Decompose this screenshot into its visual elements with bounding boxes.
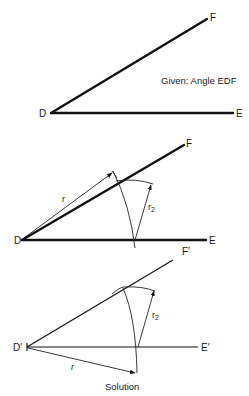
caption-solution: Solution xyxy=(105,381,139,392)
label-d: D xyxy=(14,235,21,246)
radius-r-arrow xyxy=(28,348,135,373)
radius-arc xyxy=(113,171,135,248)
label-d: D xyxy=(39,108,46,119)
label-f: F xyxy=(186,138,192,149)
angle-transfer-diagram: D E F Given: Angle EDF D E F r r2 xyxy=(0,0,249,396)
radius-arc xyxy=(123,288,137,373)
label-r2: r2 xyxy=(148,202,155,213)
chord-r2-arrow xyxy=(135,185,151,240)
label-r: r xyxy=(62,194,65,204)
ray-df-prime xyxy=(27,260,173,347)
figure-construction: D E F r r2 xyxy=(14,138,216,248)
label-d-prime: D′ xyxy=(13,342,22,353)
caption-given: Given: Angle EDF xyxy=(161,75,237,86)
ray-df xyxy=(51,19,207,113)
label-e-prime: E′ xyxy=(201,342,210,353)
figure-solution: D′ E′ F′ r r2 Solution xyxy=(13,246,210,392)
label-f: F xyxy=(210,12,216,23)
figure-given: D E F Given: Angle EDF xyxy=(39,12,243,119)
label-r2: r2 xyxy=(152,310,159,321)
label-f-prime: F′ xyxy=(182,246,190,257)
ray-df xyxy=(22,145,184,240)
label-e: E xyxy=(209,235,216,246)
label-e: E xyxy=(236,108,243,119)
label-r: r xyxy=(71,362,75,372)
radius-r-dimension xyxy=(24,173,112,238)
